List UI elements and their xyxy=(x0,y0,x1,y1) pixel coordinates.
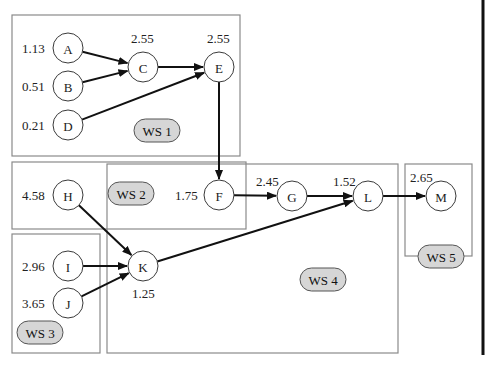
workstation-label: WS 3 xyxy=(25,326,54,341)
task-time-value: 1.75 xyxy=(175,188,198,203)
workstation-badge-ws5: WS 5 xyxy=(418,245,464,268)
workstation-precedence-diagram: A1.13B0.51D0.21C2.55E2.55H4.58F1.75G2.45… xyxy=(0,0,488,370)
workstation-badge-ws4: WS 4 xyxy=(300,268,346,291)
task-time-value: 2.55 xyxy=(207,31,230,46)
task-time-value: 2.45 xyxy=(256,174,279,189)
task-time-value: 2.65 xyxy=(410,170,433,185)
node-label: B xyxy=(64,80,73,95)
task-node-B: B0.51 xyxy=(22,71,83,101)
node-label: G xyxy=(287,190,296,205)
node-label: D xyxy=(63,119,72,134)
task-time-value: 1.25 xyxy=(132,286,155,301)
task-time-value: 2.96 xyxy=(22,259,45,274)
edge-H-to-K xyxy=(79,205,131,255)
task-time-value: 1.52 xyxy=(333,174,356,189)
task-node-I: I2.96 xyxy=(22,251,83,281)
edge-A-to-C xyxy=(83,52,128,63)
task-node-C: C2.55 xyxy=(128,31,158,83)
task-node-E: E2.55 xyxy=(204,31,234,83)
task-nodes: A1.13B0.51D0.21C2.55E2.55H4.58F1.75G2.45… xyxy=(22,31,456,319)
task-node-F: F1.75 xyxy=(175,180,234,210)
node-label: M xyxy=(435,190,447,205)
workstation-label: WS 1 xyxy=(142,124,171,139)
node-label: K xyxy=(138,260,148,275)
workstation-label: WS 5 xyxy=(426,250,455,265)
task-node-J: J3.65 xyxy=(22,288,83,318)
task-node-M: M2.65 xyxy=(410,170,456,212)
task-time-value: 0.51 xyxy=(22,79,45,94)
workstation-badge-ws3: WS 3 xyxy=(17,321,63,344)
task-time-value: 3.65 xyxy=(22,296,45,311)
node-label: A xyxy=(63,42,73,57)
task-time-value: 4.58 xyxy=(22,188,45,203)
node-label: I xyxy=(66,260,70,275)
workstation-badge-ws1: WS 1 xyxy=(134,119,180,142)
node-label: C xyxy=(139,61,148,76)
node-label: F xyxy=(215,189,222,204)
node-label: L xyxy=(364,190,372,205)
task-time-value: 1.13 xyxy=(22,41,45,56)
edge-J-to-K xyxy=(82,273,129,296)
task-time-value: 0.21 xyxy=(22,118,45,133)
edge-B-to-C xyxy=(83,71,128,82)
workstation-label: WS 2 xyxy=(116,187,145,202)
workstation-label: WS 4 xyxy=(308,273,338,288)
edge-F-to-G xyxy=(234,195,276,196)
node-label: E xyxy=(215,61,223,76)
task-node-A: A1.13 xyxy=(22,33,83,63)
workstation-badge-ws2: WS 2 xyxy=(108,182,154,205)
node-label: H xyxy=(63,189,72,204)
workstation-box-ws1 xyxy=(12,15,240,156)
edge-K-to-L xyxy=(157,201,352,262)
task-node-H: H4.58 xyxy=(22,180,83,210)
task-time-value: 2.55 xyxy=(131,31,154,46)
node-label: J xyxy=(65,297,70,312)
task-node-D: D0.21 xyxy=(22,110,83,140)
task-node-G: G2.45 xyxy=(256,174,307,212)
task-node-K: K1.25 xyxy=(128,251,158,301)
